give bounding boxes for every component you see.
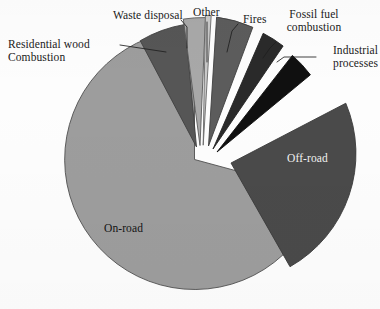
label-industrial-line2: processes: [333, 57, 378, 69]
label-residential-wood-combustion: Residential wood Combustion: [8, 38, 116, 64]
label-residential-wood-line1: Residential wood: [8, 38, 90, 50]
pie-chart-figure: Residential wood Combustion Waste dispos…: [0, 0, 380, 309]
label-fossil-fuel-line1: Fossil fuel: [289, 8, 338, 20]
label-off-road: Off-road: [287, 152, 328, 165]
label-fossil-fuel-combustion: Fossil fuel combustion: [281, 8, 347, 34]
label-industrial-line1: Industrial: [333, 44, 378, 56]
label-industrial-processes: Industrial processes: [316, 44, 378, 70]
label-fossil-fuel-line2: combustion: [287, 21, 342, 33]
label-residential-wood-line2: Combustion: [8, 51, 65, 63]
label-on-road: On-road: [104, 222, 143, 235]
label-fires: Fires: [243, 13, 267, 26]
label-other: Other: [193, 6, 220, 19]
label-waste-disposal: Waste disposal: [113, 9, 183, 22]
